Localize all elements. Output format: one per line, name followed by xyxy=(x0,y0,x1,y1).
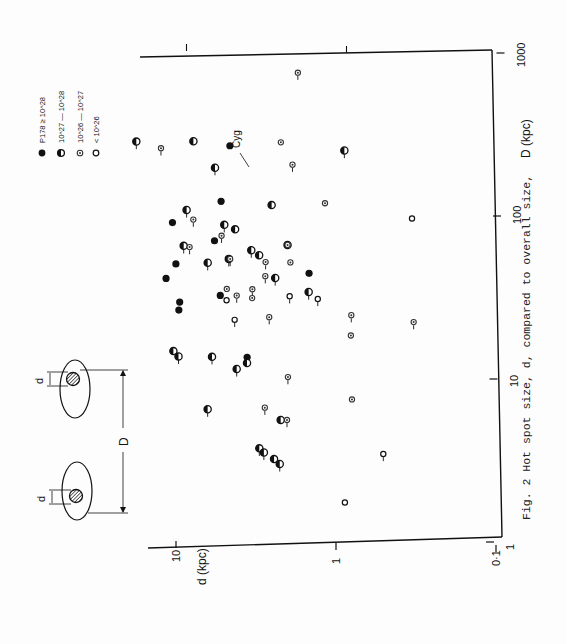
legend-label: < 10^26 xyxy=(92,116,101,143)
data-point xyxy=(175,353,182,364)
data-point xyxy=(190,138,197,145)
x-axis-title: D (kpc) xyxy=(519,119,533,158)
data-point xyxy=(348,333,353,338)
data-point xyxy=(233,365,240,376)
x-tick-label: 10 xyxy=(508,375,520,387)
d-label-bottom: d xyxy=(35,496,47,502)
data-point xyxy=(315,296,320,306)
data-point xyxy=(221,221,228,232)
data-point xyxy=(226,142,233,149)
data-point xyxy=(183,206,190,217)
x-tick-label: 1 xyxy=(504,544,516,550)
data-point xyxy=(256,252,263,259)
data-point xyxy=(217,292,224,299)
data-point xyxy=(267,315,272,325)
data-point xyxy=(234,293,239,303)
data-point xyxy=(287,294,292,304)
marker-open-icon xyxy=(224,298,229,303)
marker-filled-icon xyxy=(217,198,224,205)
data-point xyxy=(409,216,414,221)
hotspot-top xyxy=(67,373,80,386)
data-point xyxy=(162,275,169,282)
data-point xyxy=(272,274,279,285)
marker-open-icon xyxy=(232,317,237,322)
marker-open-icon xyxy=(287,294,292,299)
data-point xyxy=(180,242,187,253)
data-point xyxy=(322,201,327,206)
data-point xyxy=(169,219,176,226)
data-point xyxy=(349,313,354,323)
marker-filled-icon xyxy=(175,307,182,314)
legend-label: P178 ≥ 10^28 xyxy=(38,97,47,143)
data-point xyxy=(232,317,237,327)
data-point xyxy=(284,417,289,427)
data-point xyxy=(224,286,229,291)
data-point xyxy=(381,451,386,461)
marker-filled-icon xyxy=(172,260,179,267)
marker-open-icon xyxy=(342,500,347,505)
data-point xyxy=(208,353,215,364)
data-point xyxy=(288,260,293,265)
top-frame-line xyxy=(140,50,492,57)
data-point xyxy=(224,298,229,303)
y-tick-label: 1 xyxy=(330,558,342,564)
marker-filled-icon xyxy=(305,270,312,277)
legend-item: < 10^26 xyxy=(92,116,101,155)
data-point xyxy=(204,259,211,270)
size-diagram: d d D xyxy=(33,360,131,520)
legend: P178 ≥ 10^2810^27 — 10^2810^26 — 10^27< … xyxy=(38,91,101,156)
marker-filled-icon xyxy=(211,237,218,244)
hotspot-bottom xyxy=(70,490,83,503)
y-axis-line-right xyxy=(492,50,502,537)
y-tick-label: 0·1 xyxy=(490,550,502,566)
d-label-top: d xyxy=(33,378,45,384)
data-point xyxy=(175,307,182,314)
marker-filled-icon xyxy=(169,219,176,226)
cyg-annotation: Cyg xyxy=(231,130,249,167)
marker-filled-icon xyxy=(39,150,46,157)
marker-open-icon xyxy=(93,150,99,156)
data-point xyxy=(232,226,239,233)
legend-item: 10^27 — 10^28 xyxy=(57,91,66,156)
data-point xyxy=(295,70,300,80)
data-point xyxy=(172,260,179,267)
data-point xyxy=(278,140,283,145)
data-point xyxy=(305,288,312,299)
data-point xyxy=(411,319,416,329)
data-point xyxy=(268,201,275,208)
data-point xyxy=(219,233,224,243)
data-point xyxy=(187,244,192,254)
source-ellipse-top xyxy=(60,360,90,418)
legend-label: 10^26 — 10^27 xyxy=(76,91,85,143)
data-point xyxy=(341,147,348,158)
data-point xyxy=(243,359,250,366)
figure-caption: Fig. 2 Hot spot size, d, compared to ove… xyxy=(520,175,533,520)
data-points xyxy=(133,70,417,505)
data-point xyxy=(260,449,267,460)
x-tick-label: 1000 xyxy=(515,43,527,67)
data-point xyxy=(285,374,290,384)
marker-filled-icon xyxy=(226,142,233,149)
legend-item: P178 ≥ 10^28 xyxy=(38,97,47,156)
data-point xyxy=(262,405,267,415)
data-point xyxy=(285,242,290,247)
marker-open-icon xyxy=(315,296,320,301)
data-point xyxy=(342,500,347,505)
data-point xyxy=(263,260,268,270)
plot-frame xyxy=(140,50,502,548)
data-point xyxy=(349,397,354,402)
data-point xyxy=(211,164,218,175)
y-axis-title: d (kpc) xyxy=(195,548,209,585)
legend-item: 10^26 — 10^27 xyxy=(76,91,85,156)
y-tick-label: 10 xyxy=(170,550,182,562)
data-point xyxy=(217,198,224,205)
x-axis-line-bottom xyxy=(148,537,502,548)
marker-open-icon xyxy=(381,451,386,456)
figure-canvas: 1010·11101001000 d (kpc) D (kpc) Fig. 2 … xyxy=(0,0,566,644)
data-point xyxy=(250,296,255,301)
data-point xyxy=(133,138,140,149)
tick-labels: 1010·11101001000 xyxy=(170,43,527,566)
D-label: D xyxy=(117,437,131,446)
data-point xyxy=(176,298,183,305)
data-point xyxy=(290,162,295,172)
